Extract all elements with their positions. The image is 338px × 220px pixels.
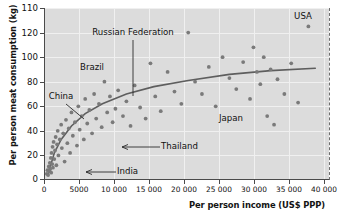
plot-right-border <box>329 8 330 180</box>
x-tick <box>324 180 325 184</box>
gridline-horizontal <box>44 106 329 107</box>
x-tick-label: 35 000 <box>276 185 302 194</box>
y-tick-label: 80 <box>12 77 38 87</box>
x-tick <box>254 180 255 184</box>
x-tick-label: 40 000 <box>311 185 337 194</box>
y-tick-label: 20 <box>12 150 38 160</box>
annotation-thailand: Thailand <box>161 142 209 152</box>
annotation-japan: Japan <box>213 114 249 124</box>
gridline-horizontal <box>44 8 329 9</box>
x-tick <box>149 180 150 184</box>
x-tick <box>79 180 80 184</box>
annotation-india: India <box>117 167 149 177</box>
x-tick-label: 10 000 <box>101 185 127 194</box>
gridline-horizontal <box>44 82 329 83</box>
y-tick <box>40 57 45 58</box>
annotation-usa: USA <box>286 12 320 22</box>
annotation-russian-federation-line1: Russian Federation <box>92 27 174 37</box>
y-tick-label: 60 <box>12 101 38 111</box>
x-tick-label: 15 000 <box>136 185 162 194</box>
y-tick-label: 0 <box>12 174 38 184</box>
y-tick <box>40 155 45 156</box>
y-axis-title: Per person meat consumption (kg) <box>8 0 18 175</box>
gridline-horizontal <box>44 57 329 58</box>
x-tick <box>289 180 290 184</box>
x-tick <box>44 180 45 184</box>
x-tick-label: 5000 <box>70 185 89 194</box>
y-tick <box>40 106 45 107</box>
gridline-horizontal <box>44 33 329 34</box>
x-tick-label: 30 000 <box>241 185 267 194</box>
x-tick-label: 20 000 <box>171 185 197 194</box>
x-tick <box>219 180 220 184</box>
y-tick-label: 120 <box>12 28 38 38</box>
gridline-horizontal <box>44 155 329 156</box>
x-tick <box>114 180 115 184</box>
annotation-russian-federation: Russian Federation <box>91 28 175 38</box>
x-tick <box>184 180 185 184</box>
x-tick-label: 25 000 <box>206 185 232 194</box>
chart-figure: Per person meat consumption (kg) 110 120… <box>0 0 338 220</box>
y-tick-label: 100 <box>12 52 38 62</box>
y-tick-label: 40 <box>12 126 38 136</box>
gridline-horizontal <box>44 131 329 132</box>
y-tick <box>40 131 45 132</box>
plot-area <box>44 8 329 180</box>
annotation-brazil: Brazil <box>72 63 112 73</box>
annotation-china: China <box>43 92 79 102</box>
x-axis-line <box>44 179 330 180</box>
y-tick <box>40 82 45 83</box>
x-axis-title: Per person income (US$ PPP) <box>178 200 336 210</box>
y-tick-label: 110 <box>12 3 38 13</box>
y-tick <box>40 8 45 9</box>
x-tick-label: 0 <box>42 185 47 194</box>
y-tick <box>40 33 45 34</box>
